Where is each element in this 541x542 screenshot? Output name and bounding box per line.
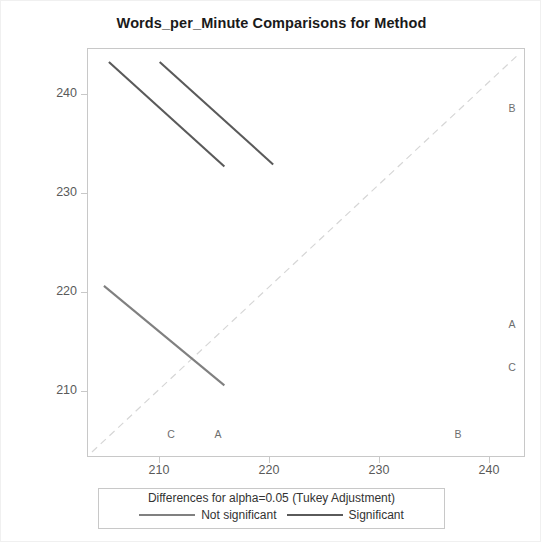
legend-label-not-significant: Not significant [201, 509, 276, 521]
plot-area: C A B B A C [87, 48, 525, 457]
legend: Differences for alpha=0.05 (Tukey Adjust… [98, 488, 445, 529]
legend-label-significant: Significant [349, 509, 404, 521]
legend-swatch-not-significant [139, 514, 195, 516]
right-group-label-c: C [502, 361, 522, 373]
legend-title: Differences for alpha=0.05 (Tukey Adjust… [99, 491, 444, 505]
plot-svg [88, 49, 524, 456]
legend-item-not-significant: Not significant [139, 509, 276, 521]
right-group-label-a: A [502, 318, 522, 330]
comparison-segment-c-b [160, 62, 273, 164]
y-tick-label-210: 210 [31, 383, 77, 397]
reference-diagonal-line [92, 53, 520, 452]
legend-entries: Not significant Significant [99, 509, 444, 521]
x-tick-mark [489, 457, 490, 463]
legend-swatch-significant [287, 514, 343, 516]
bottom-group-label-b: B [448, 428, 468, 440]
y-tick-label-230: 230 [31, 185, 77, 199]
right-group-label-b: B [502, 102, 522, 114]
bottom-group-label-a: A [208, 428, 228, 440]
chart-title: Words_per_Minute Comparisons for Method [1, 15, 541, 31]
y-tick-label-240: 240 [31, 86, 77, 100]
legend-item-significant: Significant [287, 509, 404, 521]
x-tick-mark [379, 457, 380, 463]
chart-page: Words_per_Minute Comparisons for Method … [0, 0, 541, 542]
bottom-group-label-c: C [161, 428, 181, 440]
x-tick-mark [159, 457, 160, 463]
x-tick-mark [269, 457, 270, 463]
comparison-segment-a-b [109, 62, 224, 166]
x-tick-label-240: 240 [459, 463, 519, 477]
x-tick-label-230: 230 [349, 463, 409, 477]
comparison-segment-a-c [104, 286, 224, 386]
x-tick-label-210: 210 [129, 463, 189, 477]
x-tick-label-220: 220 [239, 463, 299, 477]
y-tick-label-220: 220 [31, 284, 77, 298]
